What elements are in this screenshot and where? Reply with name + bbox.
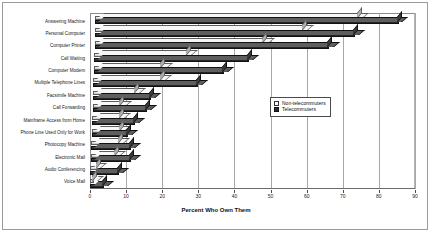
bar-telecommuters (95, 20, 398, 24)
x-tick-label: 40 (232, 193, 238, 199)
category-label: Mainframe Access from Home (23, 119, 85, 124)
bar-body (93, 83, 198, 87)
bar-row (90, 139, 415, 152)
gridline (415, 13, 416, 189)
bar-row (90, 176, 415, 189)
category-label: Photocopy Machine (45, 143, 85, 148)
bar-body (94, 70, 224, 74)
bar-rows (90, 13, 415, 189)
bar-telecommuters (90, 184, 104, 188)
bar-top-face (93, 168, 129, 173)
bar-row (90, 13, 415, 26)
bar-body (91, 146, 131, 150)
bar-body (92, 121, 135, 125)
category-label: Facsimile Machine (47, 94, 85, 99)
x-tick-label: 90 (412, 193, 418, 199)
bar-top-face (96, 80, 208, 85)
bar-row (90, 26, 415, 39)
bar-top-face (95, 118, 145, 123)
category-label: Audio Conferencing (45, 168, 85, 173)
x-tick-label: 50 (268, 193, 274, 199)
bar-row (90, 164, 415, 177)
category-label: Call Forwarding (53, 106, 85, 111)
bar-telecommuters (95, 33, 355, 37)
bar-row (90, 114, 415, 127)
category-label: Voice Mail (64, 180, 85, 185)
bar-body (95, 45, 330, 49)
bar-row (90, 38, 415, 51)
bar-row (90, 151, 415, 164)
category-label: Computer Printer (50, 44, 85, 49)
category-label: Computer Modem (48, 69, 85, 74)
bar-telecommuters (93, 83, 198, 87)
bar-top-face (95, 130, 138, 135)
x-tick-label: 0 (89, 193, 92, 199)
x-tick-label: 60 (304, 193, 310, 199)
bar-telecommuters (92, 121, 135, 125)
category-label: Personal Computer (45, 32, 85, 37)
legend-swatch-telecommuters (274, 107, 279, 112)
bar-body (90, 184, 104, 188)
category-label: Answering Machine (45, 20, 85, 25)
x-tick-label: 10 (123, 193, 129, 199)
legend-swatch-non-telecommuters (274, 101, 279, 106)
bar-top-face (98, 42, 340, 47)
category-label: Electronic Mail (55, 156, 85, 161)
bar-telecommuters (91, 146, 131, 150)
bar-non-telecommuters (90, 179, 94, 183)
category-label: Call Waiting (61, 57, 85, 62)
bar-row (90, 88, 415, 101)
legend-item: Telecommuters (274, 107, 326, 112)
legend-label-telecommuters: Telecommuters (282, 107, 316, 112)
x-axis-title: Percent Who Own Them (0, 207, 432, 213)
bar-body (95, 33, 355, 37)
x-tick-label: 70 (340, 193, 346, 199)
category-label: Phone Line Used Only for Work (20, 131, 85, 136)
x-tick-label: 30 (196, 193, 202, 199)
x-axis-ticks: 0102030405060708090 (90, 190, 415, 202)
bar-row (90, 101, 415, 114)
bar-telecommuters (95, 45, 330, 49)
plot-area (90, 13, 415, 189)
bar-top-face (97, 67, 234, 72)
bar-body (95, 20, 398, 24)
bar-body (90, 179, 94, 183)
x-tick-label: 80 (376, 193, 382, 199)
bar-row (90, 63, 415, 76)
bar-telecommuters (94, 70, 224, 74)
bar-row (90, 51, 415, 64)
x-tick-label: 20 (159, 193, 165, 199)
bar-row (90, 126, 415, 139)
legend: Non-telecommuters Telecommuters (270, 97, 331, 117)
category-axis-labels: Answering MachinePersonal ComputerComput… (0, 13, 88, 189)
bar-top-face (97, 55, 259, 60)
bar-chart: Answering MachinePersonal ComputerComput… (0, 0, 432, 233)
bar-top-face (98, 30, 365, 35)
category-label: Multiple Telephone Lines (35, 81, 85, 86)
bar-top-face (98, 17, 408, 22)
